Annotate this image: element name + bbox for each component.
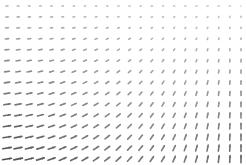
arrow xyxy=(129,49,131,50)
arrow xyxy=(128,71,130,73)
quiver-plot xyxy=(0,0,246,165)
arrow xyxy=(174,49,175,51)
arrow xyxy=(151,49,152,50)
arrow xyxy=(151,28,152,29)
arrow xyxy=(163,27,164,28)
arrow xyxy=(207,49,208,51)
arrow xyxy=(50,39,53,40)
arrow xyxy=(73,38,75,39)
arrow xyxy=(117,60,119,62)
arrow-field xyxy=(3,6,243,163)
arrow xyxy=(196,17,197,18)
arrow xyxy=(196,60,197,62)
arrow xyxy=(84,49,87,50)
arrowhead-icon xyxy=(240,155,243,158)
arrow xyxy=(174,38,175,39)
arrow xyxy=(185,49,186,51)
arrow xyxy=(151,60,153,62)
arrow xyxy=(185,38,186,39)
arrow xyxy=(196,38,197,39)
arrow xyxy=(185,60,186,62)
arrow xyxy=(118,28,119,29)
arrow xyxy=(129,28,130,29)
arrow xyxy=(162,70,164,72)
arrow xyxy=(151,70,153,72)
arrow xyxy=(174,27,175,28)
arrow xyxy=(73,49,76,50)
arrow xyxy=(207,16,208,17)
arrow xyxy=(106,60,108,61)
arrow xyxy=(95,49,97,50)
arrow xyxy=(162,38,163,39)
arrow xyxy=(185,17,186,18)
arrow xyxy=(95,38,97,39)
arrow xyxy=(162,17,163,18)
arrow xyxy=(140,49,142,50)
arrow xyxy=(106,38,108,39)
arrow xyxy=(95,28,97,29)
arrow xyxy=(196,27,197,28)
arrow xyxy=(207,59,208,61)
arrow xyxy=(117,49,119,50)
arrow xyxy=(95,60,98,61)
arrow xyxy=(129,60,131,62)
arrow xyxy=(196,70,197,73)
arrow xyxy=(162,60,163,62)
arrow xyxy=(140,28,141,29)
arrow xyxy=(106,49,108,50)
arrow xyxy=(185,27,186,28)
arrow xyxy=(129,38,131,39)
arrow xyxy=(140,60,142,62)
arrow xyxy=(84,38,86,39)
arrow xyxy=(196,49,197,51)
arrow xyxy=(61,38,64,39)
arrow xyxy=(118,38,120,39)
arrow xyxy=(174,60,175,62)
arrow xyxy=(174,17,175,18)
arrow xyxy=(151,38,152,39)
arrow xyxy=(185,70,186,73)
arrow xyxy=(140,71,142,73)
arrow xyxy=(162,49,163,51)
arrow xyxy=(106,28,108,29)
arrow xyxy=(207,70,208,73)
arrow xyxy=(173,70,174,72)
arrow xyxy=(140,38,141,39)
arrowhead-icon xyxy=(240,145,242,147)
